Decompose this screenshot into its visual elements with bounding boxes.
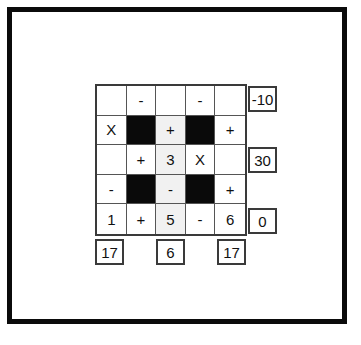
grid-cell-r2c2[interactable]: 3: [156, 145, 186, 175]
grid-cell-r3c0[interactable]: -: [97, 175, 127, 205]
grid-cell-r3c4[interactable]: +: [215, 175, 245, 205]
grid-cell-r2c1[interactable]: +: [127, 145, 157, 175]
grid-cell-r4c0[interactable]: 1: [97, 204, 127, 234]
grid-cell-r1c2[interactable]: +: [156, 116, 186, 146]
row-result-box-5[interactable]: 0: [248, 208, 277, 234]
row-result-box-3[interactable]: 30: [248, 147, 277, 173]
column-total-box-5[interactable]: 17: [217, 239, 246, 265]
puzzle-grid: - - X + + + 3 X - - + 1 + 5: [95, 84, 247, 236]
grid-cell-r0c2[interactable]: [156, 86, 186, 116]
grid-cell-text: +: [166, 122, 175, 137]
grid-cell-r3c1: [127, 175, 157, 205]
grid-cell-text: +: [226, 181, 235, 196]
grid-cell-text: -: [109, 181, 114, 196]
grid-cell-text: X: [195, 151, 205, 166]
grid-cell-r4c2[interactable]: 5: [156, 204, 186, 234]
grid-cell-r1c1: [127, 116, 157, 146]
grid-cell-r1c3: [186, 116, 216, 146]
row-result-value: -10: [252, 92, 274, 107]
column-total-value: 6: [166, 245, 174, 260]
grid-cell-r1c4[interactable]: +: [215, 116, 245, 146]
outer-frame: - - X + + + 3 X - - + 1 + 5: [7, 7, 347, 324]
grid-cell-r4c1[interactable]: +: [127, 204, 157, 234]
column-total-value: 17: [101, 245, 118, 260]
grid-cell-r4c4[interactable]: 6: [215, 204, 245, 234]
grid-cell-text: X: [106, 122, 116, 137]
grid-cell-r2c0[interactable]: [97, 145, 127, 175]
grid-cell-r0c3[interactable]: -: [186, 86, 216, 116]
grid-cell-r3c2[interactable]: -: [156, 175, 186, 205]
grid-cell-r3c3: [186, 175, 216, 205]
grid-cell-r0c0[interactable]: [97, 86, 127, 116]
grid-cell-text: +: [137, 151, 146, 166]
row-result-value: 30: [254, 153, 271, 168]
grid-cell-r2c4[interactable]: [215, 145, 245, 175]
grid-cell-r4c3[interactable]: -: [186, 204, 216, 234]
grid-cell-text: 3: [166, 151, 174, 166]
row-result-value: 0: [258, 214, 266, 229]
grid-cell-text: 1: [107, 211, 115, 226]
grid-cell-text: 6: [226, 211, 234, 226]
grid-cell-text: -: [168, 181, 173, 196]
grid-cell-text: -: [198, 92, 203, 107]
grid-cell-r2c3[interactable]: X: [186, 145, 216, 175]
grid-cell-text: +: [226, 122, 235, 137]
grid-cell-r0c4[interactable]: [215, 86, 245, 116]
column-total-box-1[interactable]: 17: [95, 239, 124, 265]
column-total-box-3[interactable]: 6: [156, 239, 185, 265]
grid-cell-r1c0[interactable]: X: [97, 116, 127, 146]
grid-cell-text: -: [198, 211, 203, 226]
grid-cell-text: +: [137, 211, 146, 226]
grid-cell-text: 5: [166, 211, 174, 226]
row-result-box-1[interactable]: -10: [248, 86, 277, 112]
grid-cell-text: -: [138, 92, 143, 107]
column-total-value: 17: [223, 245, 240, 260]
puzzle-stage: - - X + + + 3 X - - + 1 + 5: [95, 84, 295, 269]
grid-cell-r0c1[interactable]: -: [127, 86, 157, 116]
